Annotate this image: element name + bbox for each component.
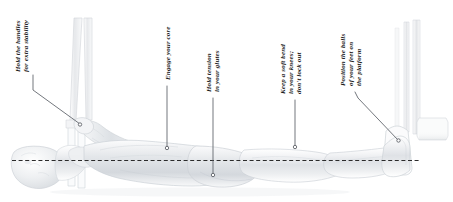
anchor-hold-handles — [78, 123, 81, 126]
anchor-soft-bend — [293, 145, 296, 148]
callout-balls-of-feet-line-1: Position the balls — [339, 34, 347, 86]
callout-hold-handles: Hold the handles for extra stability — [14, 20, 30, 72]
foot-platform — [417, 118, 448, 140]
callout-soft-bend-line-3: don't lock out — [295, 44, 303, 94]
callout-hold-tension-line-2: in your glutes — [213, 50, 221, 92]
anchor-engage-core — [165, 146, 168, 149]
callout-engage-core-line-1: Engage your core — [164, 26, 172, 80]
callout-soft-bend-line-1: Keep a soft bend — [279, 44, 287, 94]
callout-engage-core: Engage your core — [164, 26, 172, 80]
callout-hold-handles-line-1: Hold the handles — [14, 20, 22, 72]
callout-balls-of-feet-line-2: of your feet on — [347, 34, 355, 86]
upright-frame — [395, 20, 420, 134]
anchor-balls-of-feet — [397, 139, 400, 142]
illustration-canvas: Hold the handles for extra stability Eng… — [0, 0, 453, 202]
leader-line-balls-of-feet — [355, 92, 398, 140]
callout-hold-handles-line-2: for extra stability — [22, 20, 30, 72]
callout-soft-bend: Keep a soft bend in your knees; don't lo… — [279, 44, 304, 94]
exercise-figure-artwork — [0, 0, 453, 202]
callout-balls-of-feet: Position the balls of your feet on the p… — [339, 34, 364, 86]
callout-soft-bend-line-2: in your knees; — [287, 44, 295, 94]
callout-balls-of-feet-line-3: the platform — [355, 34, 363, 86]
callout-hold-tension: Hold tension in your glutes — [205, 50, 221, 92]
callout-hold-tension-line-1: Hold tension — [205, 50, 213, 92]
anchor-hold-tension — [211, 173, 214, 176]
